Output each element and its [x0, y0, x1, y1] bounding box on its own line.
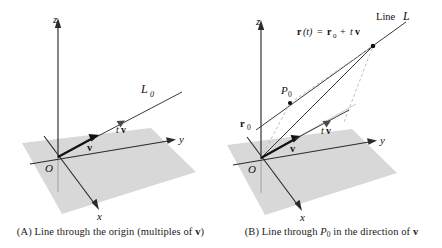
- origin-label: O: [45, 162, 53, 174]
- panel-a-diagram: z y x O L 0 t v v: [0, 0, 221, 226]
- point-p0-label: P: [280, 84, 288, 96]
- equation-paren-t: (t): [303, 26, 313, 38]
- vector-r0-label: r: [240, 118, 245, 129]
- vector-lines-figure: z y x O L 0 t v v (A) Line through the o…: [0, 0, 442, 248]
- equation-r-of-t: r (t) = r 0 + t v: [297, 26, 360, 40]
- panel-a-caption-prefix: (A) Line through the origin (multiples o…: [17, 226, 195, 237]
- panel-a-line-through-origin: z y x O L 0 t v v (A) Line through the o…: [0, 0, 221, 248]
- equation-r0: r: [327, 26, 332, 37]
- line-L-label-script: L: [402, 9, 410, 23]
- origin-label: O: [248, 163, 256, 175]
- y-axis-label: y: [379, 134, 385, 146]
- panel-a-caption: (A) Line through the origin (multiples o…: [0, 226, 221, 237]
- point-p0-dot: [288, 101, 292, 105]
- equation-v: v: [355, 26, 360, 37]
- equation-r: r: [297, 26, 302, 37]
- point-rt-dot: [371, 44, 376, 49]
- x-axis-label: x: [96, 210, 102, 222]
- line-L-label-word: Line: [376, 11, 396, 22]
- panel-b-caption-middle: in the direction of: [331, 226, 413, 237]
- equation-t: t: [350, 26, 353, 37]
- vector-v-label: v: [87, 142, 93, 153]
- point-p0-label-subscript: 0: [288, 90, 292, 99]
- line-L0-label-subscript: 0: [150, 90, 154, 99]
- panel-b-line-through-p0: z y x O Line L r (t) = r 0 + t v P 0 r: [221, 0, 442, 248]
- vector-r0-label-subscript: 0: [247, 123, 251, 132]
- panel-b-caption: (B) Line through P0 in the direction of …: [221, 226, 442, 239]
- line-L0-label: L: [140, 82, 148, 96]
- scaled-vector-tv-label-v: v: [121, 124, 126, 135]
- y-axis-label: y: [178, 133, 184, 145]
- panel-a-caption-suffix: ): [201, 226, 205, 237]
- scaled-vector-tv-label-v: v: [326, 125, 331, 136]
- equation-r0-subscript: 0: [333, 32, 337, 40]
- equation-equals: =: [317, 26, 323, 37]
- x-axis-label: x: [299, 211, 305, 223]
- z-axis-label: z: [255, 15, 261, 27]
- equation-plus: +: [340, 26, 346, 37]
- scaled-vector-tv-label-t: t: [321, 125, 324, 136]
- panel-b-caption-prefix: (B) Line through: [245, 226, 320, 237]
- scaled-vector-tv-label-t: t: [116, 124, 119, 135]
- vector-v-label: v: [290, 143, 296, 154]
- panel-b-caption-vector: v: [413, 226, 418, 237]
- line-L: [256, 22, 406, 130]
- z-axis-label: z: [52, 13, 58, 25]
- panel-b-diagram: z y x O Line L r (t) = r 0 + t v P 0 r: [221, 0, 442, 226]
- y-axis-arrowhead: [367, 138, 377, 145]
- y-axis-arrowhead: [166, 137, 176, 144]
